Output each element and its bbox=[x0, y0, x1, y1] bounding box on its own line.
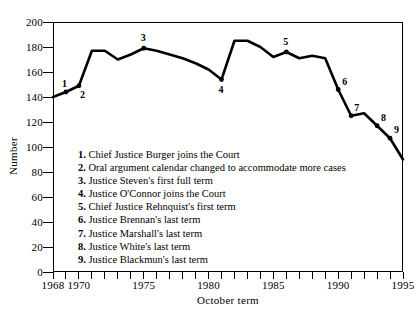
x-tick-1988 bbox=[312, 272, 313, 279]
y-tick-120 bbox=[43, 122, 53, 123]
marker-number-7: 7 bbox=[354, 103, 359, 113]
y-tick-80 bbox=[43, 172, 53, 173]
x-tick-1984 bbox=[260, 272, 261, 279]
x-tick-1982 bbox=[234, 272, 235, 279]
legend-item-8: 8. Justice White's last term bbox=[78, 240, 378, 253]
y-tick-160 bbox=[43, 72, 53, 73]
legend-item-number: 3. bbox=[78, 175, 89, 186]
legend-item-3: 3. Justice Steven's first full term bbox=[78, 174, 378, 187]
x-tick-label-1990: 1990 bbox=[318, 280, 358, 291]
x-tick-1972 bbox=[104, 272, 105, 279]
x-tick-1987 bbox=[299, 272, 300, 279]
y-tick-label-0: 0 bbox=[3, 267, 43, 278]
x-axis-title: October term bbox=[53, 294, 403, 306]
x-tick-1995 bbox=[403, 272, 404, 279]
x-tick-1981 bbox=[221, 272, 222, 279]
legend-item-number: 5. bbox=[78, 201, 89, 212]
y-tick-label-160: 160 bbox=[3, 67, 43, 78]
y-tick-200 bbox=[43, 22, 53, 23]
y-tick-label-20: 20 bbox=[3, 242, 43, 253]
x-tick-1977 bbox=[169, 272, 170, 279]
legend-item-text: Justice Steven's first full term bbox=[89, 175, 213, 186]
x-tick-1968 bbox=[53, 272, 54, 279]
x-tick-1969 bbox=[65, 272, 66, 279]
legend-item-number: 9. bbox=[78, 254, 89, 265]
x-tick-1978 bbox=[182, 272, 183, 279]
x-tick-label-1970: 1970 bbox=[59, 280, 99, 291]
legend-item-4: 4. Justice O'Connor joins the Court bbox=[78, 187, 378, 200]
y-tick-0 bbox=[43, 272, 53, 273]
legend-item-6: 6. Justice Brennan's last term bbox=[78, 213, 378, 226]
y-tick-label-140: 140 bbox=[3, 92, 43, 103]
legend-item-text: Chief Justice Burger joins the Court bbox=[89, 149, 240, 160]
x-tick-label-1985: 1985 bbox=[253, 280, 293, 291]
marker-number-4: 4 bbox=[219, 85, 224, 95]
x-tick-1980 bbox=[208, 272, 209, 279]
y-tick-20 bbox=[43, 247, 53, 248]
marker-number-5: 5 bbox=[283, 37, 288, 47]
x-tick-1971 bbox=[91, 272, 92, 279]
y-tick-60 bbox=[43, 197, 53, 198]
legend-item-text: Justice O'Connor joins the Court bbox=[89, 188, 226, 199]
marker-number-2: 2 bbox=[80, 90, 85, 100]
legend-item-number: 7. bbox=[78, 228, 89, 239]
marker-number-8: 8 bbox=[381, 113, 386, 123]
x-tick-1970 bbox=[78, 272, 79, 279]
marker-number-9: 9 bbox=[394, 125, 399, 135]
y-tick-140 bbox=[43, 97, 53, 98]
marker-number-1: 1 bbox=[62, 79, 67, 89]
x-tick-1990 bbox=[338, 272, 339, 279]
legend-item-9: 9. Justice Blackmun's last term bbox=[78, 253, 378, 266]
legend-item-number: 6. bbox=[78, 214, 89, 225]
x-tick-1975 bbox=[143, 272, 144, 279]
x-tick-1989 bbox=[325, 272, 326, 279]
y-tick-label-180: 180 bbox=[3, 42, 43, 53]
legend-item-text: Justice Blackmun's last term bbox=[89, 254, 208, 265]
y-tick-100 bbox=[43, 147, 53, 148]
legend-item-text: Justice Brennan's last term bbox=[89, 214, 201, 225]
marker-number-3: 3 bbox=[141, 33, 146, 43]
supreme-court-cases-chart: 020406080100120140160180200 Number 19681… bbox=[0, 0, 419, 312]
x-tick-1973 bbox=[117, 272, 118, 279]
y-tick-label-200: 200 bbox=[3, 17, 43, 28]
legend-item-number: 4. bbox=[78, 188, 89, 199]
x-tick-label-1980: 1980 bbox=[189, 280, 229, 291]
x-tick-1976 bbox=[156, 272, 157, 279]
legend-item-text: Chief Justice Rehnquist's first term bbox=[89, 201, 236, 212]
x-tick-label-1975: 1975 bbox=[124, 280, 164, 291]
legend-item-7: 7. Justice Marshall's last term bbox=[78, 227, 378, 240]
legend-item-text: Justice White's last term bbox=[89, 241, 191, 252]
x-tick-1994 bbox=[390, 272, 391, 279]
legend-item-number: 8. bbox=[78, 241, 89, 252]
y-tick-label-40: 40 bbox=[3, 217, 43, 228]
x-tick-1974 bbox=[130, 272, 131, 279]
legend-item-text: Justice Marshall's last term bbox=[89, 228, 203, 239]
x-tick-label-1995: 1995 bbox=[383, 280, 419, 291]
x-tick-1993 bbox=[377, 272, 378, 279]
legend: 1. Chief Justice Burger joins the Court2… bbox=[78, 148, 378, 266]
marker-number-6: 6 bbox=[342, 77, 347, 87]
legend-item-5: 5. Chief Justice Rehnquist's first term bbox=[78, 200, 378, 213]
x-tick-1983 bbox=[247, 272, 248, 279]
x-tick-1979 bbox=[195, 272, 196, 279]
legend-item-number: 1. bbox=[78, 149, 89, 160]
x-tick-1992 bbox=[364, 272, 365, 279]
legend-item-number: 2. bbox=[78, 162, 89, 173]
legend-item-1: 1. Chief Justice Burger joins the Court bbox=[78, 148, 378, 161]
x-tick-1986 bbox=[286, 272, 287, 279]
y-tick-180 bbox=[43, 47, 53, 48]
y-tick-label-60: 60 bbox=[3, 192, 43, 203]
x-tick-1985 bbox=[273, 272, 274, 279]
y-tick-40 bbox=[43, 222, 53, 223]
y-axis-title: Number bbox=[7, 121, 19, 191]
x-tick-1991 bbox=[351, 272, 352, 279]
legend-item-2: 2. Oral argument calendar changed to acc… bbox=[78, 161, 378, 174]
legend-item-text: Oral argument calendar changed to accomm… bbox=[89, 162, 346, 173]
